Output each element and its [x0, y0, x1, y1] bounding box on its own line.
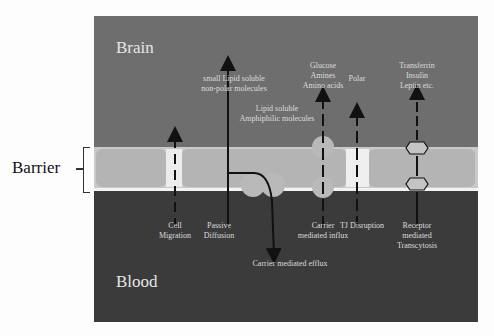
label-amphiphilic-molecules: Lipid soluble Amphiphilic molecules [232, 104, 322, 124]
label-cell-migration: Cell Migration [150, 221, 200, 241]
blood-label: Blood [116, 272, 158, 292]
label-receptor-transcytosis: Receptor mediated Transcytosis [387, 221, 447, 251]
bbb-transport-diagram: Brain Blood small Lipid soluble non-pola… [94, 16, 478, 322]
label-small-lipid-molecules: small Lipid soluble non-polar molecules [189, 74, 279, 94]
label-passive-diffusion: Passive Diffusion [194, 221, 244, 241]
barrier-label: Barrier [12, 158, 60, 178]
label-carrier-efflux: Carrier mediated efflux [240, 259, 340, 269]
label-transferrin: Transferrin Insulin Leptin etc. [387, 61, 447, 91]
brain-label: Brain [116, 38, 154, 58]
barrier-bracket-tick [76, 168, 83, 170]
barrier-bracket [83, 147, 90, 193]
label-tj-disruption: TJ Disruption [332, 221, 392, 231]
label-polar: Polar [342, 74, 372, 84]
